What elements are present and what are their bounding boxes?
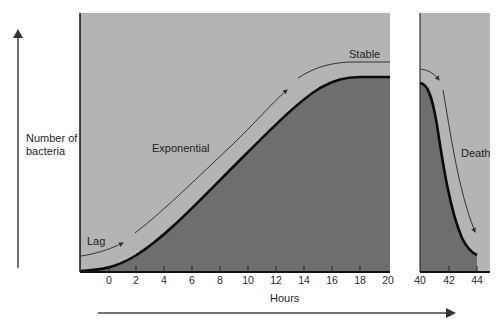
tick-40: 40 bbox=[414, 274, 426, 286]
y-axis-label-line2: bacteria bbox=[26, 145, 66, 157]
tick-12: 12 bbox=[270, 274, 282, 286]
tick-44: 44 bbox=[471, 274, 483, 286]
tick-18: 18 bbox=[354, 274, 366, 286]
x-tick-labels: 0 2 4 6 8 10 12 14 16 18 20 40 42 44 bbox=[106, 274, 483, 286]
growth-curve-diagram: Number of bacteria Lag Exponential Stabl… bbox=[0, 0, 499, 325]
y-axis-label-line1: Number of bbox=[26, 132, 78, 144]
tick-2: 2 bbox=[133, 274, 139, 286]
x-axis-label: Hours bbox=[270, 292, 300, 304]
death-label: Death bbox=[461, 147, 490, 159]
lag-label: Lag bbox=[87, 235, 105, 247]
stable-label: Stable bbox=[349, 48, 380, 60]
tick-0: 0 bbox=[106, 274, 112, 286]
tick-6: 6 bbox=[189, 274, 195, 286]
tick-20: 20 bbox=[382, 274, 394, 286]
y-axis-arrow bbox=[13, 29, 23, 268]
tick-16: 16 bbox=[326, 274, 338, 286]
tick-10: 10 bbox=[242, 274, 254, 286]
x-axis-arrow bbox=[98, 308, 456, 318]
tick-42: 42 bbox=[443, 274, 455, 286]
tick-8: 8 bbox=[217, 274, 223, 286]
exponential-label: Exponential bbox=[152, 142, 210, 154]
tick-4: 4 bbox=[161, 274, 167, 286]
right-panel bbox=[420, 13, 490, 272]
tick-14: 14 bbox=[298, 274, 310, 286]
left-panel bbox=[80, 13, 390, 272]
